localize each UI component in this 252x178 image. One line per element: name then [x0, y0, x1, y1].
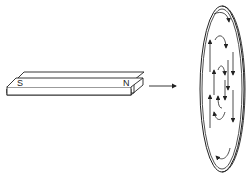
- south-pole-label: S: [17, 78, 23, 88]
- eddy-current-diagram: S N: [0, 0, 252, 178]
- bar-magnet: S N: [7, 72, 144, 95]
- north-pole-label: N: [123, 78, 130, 88]
- conducting-disc: [200, 6, 245, 172]
